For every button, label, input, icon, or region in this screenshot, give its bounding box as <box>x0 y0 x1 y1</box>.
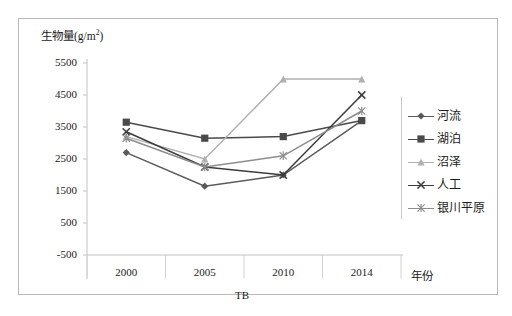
diamond-marker-icon <box>201 183 208 190</box>
series-人工 <box>123 91 366 178</box>
legend-item-河流[interactable]: 河流 <box>408 105 461 127</box>
chart-figure: 生物量(g/m2) 55004500350025001500500-500 20… <box>18 18 498 295</box>
legend-label: 人工 <box>437 179 461 191</box>
legend-item-沼泽[interactable]: 沼泽 <box>408 151 461 173</box>
square-marker-icon <box>417 135 424 142</box>
square-marker-icon <box>123 119 130 126</box>
legend-swatch <box>408 110 434 122</box>
legend-label: 沼泽 <box>437 156 461 168</box>
legend-item-湖泊[interactable]: 湖泊 <box>408 128 461 150</box>
square-marker-icon <box>280 133 287 140</box>
triangle-icon <box>417 158 425 166</box>
series-银川平原 <box>123 107 366 171</box>
star-icon <box>417 204 425 212</box>
diamond-icon <box>417 112 425 120</box>
legend-swatch <box>408 202 434 214</box>
legend-swatch <box>408 156 434 168</box>
legend-label: 银川平原 <box>437 202 485 214</box>
diamond-marker-icon <box>123 149 130 156</box>
diamond-marker-icon <box>417 112 424 119</box>
square-marker-icon <box>358 117 365 124</box>
legend-swatch <box>408 179 434 191</box>
square-icon <box>417 135 425 143</box>
series-line <box>126 95 362 175</box>
series-line <box>126 121 362 139</box>
legend-item-人工[interactable]: 人工 <box>408 174 461 196</box>
square-marker-icon <box>201 135 208 142</box>
legend-swatch <box>408 133 434 145</box>
cross-icon <box>417 181 425 189</box>
legend-item-银川平原[interactable]: 银川平原 <box>408 197 485 219</box>
legend-label: 湖泊 <box>437 133 461 145</box>
chart-legend: 河流湖泊沼泽人工银川平原 <box>401 97 497 219</box>
legend-label: 河流 <box>437 110 461 122</box>
triangle-marker-icon <box>417 158 424 165</box>
